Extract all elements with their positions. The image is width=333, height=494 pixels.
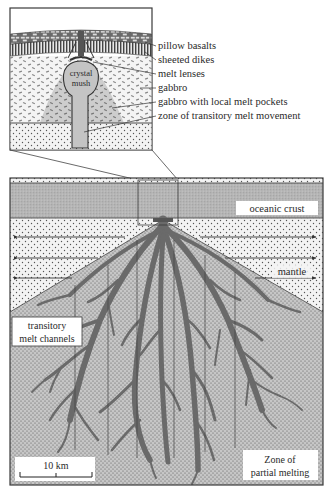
crystal-mush-label-2: mush bbox=[72, 78, 91, 88]
channels-label-1: transitory bbox=[28, 320, 66, 331]
channels-label-2: melt channels bbox=[19, 333, 74, 344]
label-pillow-basalts: pillow basalts bbox=[158, 40, 216, 51]
label-gabbro-melt-pockets: gabbro with local melt pockets bbox=[158, 96, 287, 107]
feeder-dike bbox=[78, 31, 84, 56]
scale-bar: 10 km bbox=[15, 457, 95, 481]
label-melt-lenses: melt lenses bbox=[158, 68, 205, 79]
zoom-connector-lines bbox=[10, 150, 178, 180]
label-transitory-melt-zone: zone of transitory melt movement bbox=[158, 110, 300, 121]
scale-bar-label: 10 km bbox=[43, 460, 69, 471]
oceanic-crust-label: oceanic crust bbox=[249, 203, 304, 214]
mantle-label: mantle bbox=[278, 266, 307, 277]
partial-melting-label-1: Zone of bbox=[264, 454, 296, 465]
melt-migration-diagram: crystal mush pillow basalts sheeted dike… bbox=[0, 0, 333, 494]
label-gabbro: gabbro bbox=[158, 82, 187, 93]
label-sheeted-dikes: sheeted dikes bbox=[158, 54, 214, 65]
main-cross-section: oceanic crust mantle transitory melt cha… bbox=[10, 178, 323, 485]
partial-melting-label-2: partial melting bbox=[251, 467, 310, 478]
crystal-mush-label-1: crystal bbox=[70, 68, 93, 78]
inset-panel: crystal mush pillow basalts sheeted dike… bbox=[10, 8, 300, 150]
